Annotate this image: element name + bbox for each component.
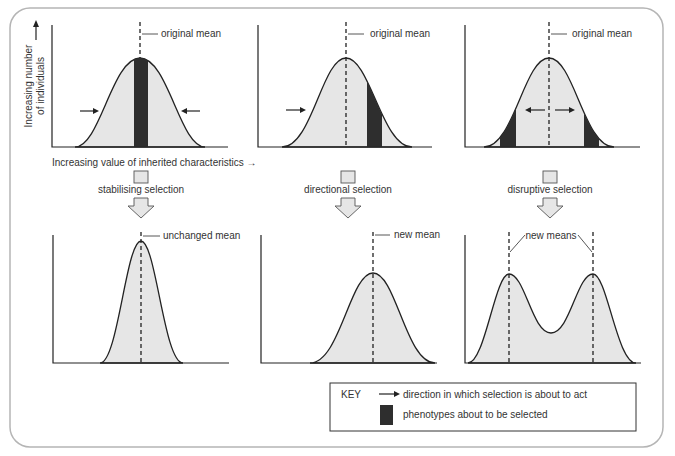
top-panel-stabilising: original mean xyxy=(52,22,228,150)
mean-label: new means xyxy=(525,230,576,241)
y-axis-arrow-icon xyxy=(33,20,39,40)
key-selected-swatch xyxy=(380,405,393,425)
selected-phenotypes-block xyxy=(134,50,148,150)
key-box: KEY direction in which selection is abou… xyxy=(330,383,636,431)
svg-text:directional selection: directional selection xyxy=(304,184,392,195)
key-arrow-text: direction in which selection is about to… xyxy=(403,389,587,400)
bottom-panel-stabilising: unchanged mean xyxy=(53,230,240,363)
mean-label: unchanged mean xyxy=(163,230,240,241)
bottom-panel-disruptive: new means xyxy=(465,230,641,363)
distribution-curve xyxy=(282,58,412,147)
mean-label: original mean xyxy=(370,28,430,39)
mean-label: original mean xyxy=(572,28,632,39)
arrow-left-icon xyxy=(181,108,200,114)
key-title: KEY xyxy=(341,389,361,400)
distribution-curve xyxy=(468,274,636,363)
arrow-right-icon xyxy=(80,108,99,114)
mean-label: new mean xyxy=(394,229,440,240)
key-block-text: phenotypes about to be selected xyxy=(403,409,548,420)
x-axis-label: Increasing value of inherited characteri… xyxy=(52,157,257,168)
y-axis-label: Increasing number of individuals xyxy=(23,44,46,127)
transition-stabilising: stabilising selection xyxy=(98,171,184,218)
transition-disruptive: disruptive selection xyxy=(507,171,592,218)
arrow-right-icon xyxy=(286,107,306,113)
mean-label: original mean xyxy=(161,28,221,39)
selected-phenotypes-block xyxy=(367,50,382,150)
svg-text:of individuals: of individuals xyxy=(35,57,46,115)
transition-directional: directional selection xyxy=(304,171,392,218)
down-arrow-icon xyxy=(335,198,361,218)
svg-text:stabilising selection: stabilising selection xyxy=(98,184,184,195)
top-panel-disruptive: original mean xyxy=(465,22,640,150)
svg-text:Increasing number: Increasing number xyxy=(23,44,34,127)
down-arrow-icon xyxy=(128,198,154,218)
selected-phenotypes-block-left xyxy=(500,50,516,150)
top-panel-directional: original mean xyxy=(258,22,432,150)
bottom-panel-directional: new mean xyxy=(261,229,440,363)
svg-text:disruptive selection: disruptive selection xyxy=(507,184,592,195)
selection-diagram: original mean Increasing number of indiv… xyxy=(0,0,675,456)
down-arrow-icon xyxy=(537,198,563,218)
